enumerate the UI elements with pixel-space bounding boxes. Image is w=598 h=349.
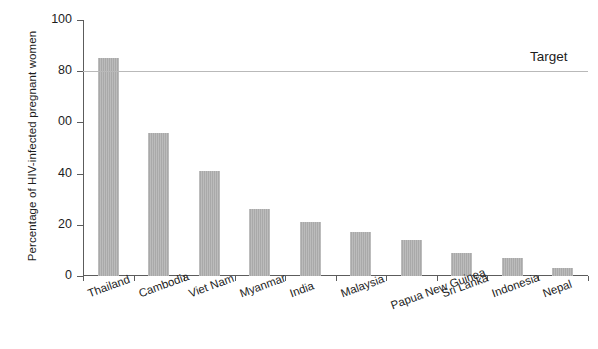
y-axis-title: Percentage of HIV-infected pregnant wome… — [26, 6, 38, 286]
y-axis-tick-label: 00 — [38, 114, 72, 128]
y-axis-tick: 20 — [77, 225, 83, 226]
x-axis-label: Thailand — [86, 273, 132, 299]
target-label: Target — [530, 49, 568, 64]
bar — [552, 268, 573, 276]
bar — [98, 58, 119, 276]
y-axis-tick: 40 — [77, 174, 83, 175]
bar — [401, 240, 422, 276]
y-axis-tick-label: 100 — [38, 12, 72, 26]
x-axis-label: India — [288, 279, 316, 299]
bar — [502, 258, 523, 276]
y-axis-tick: 00 — [77, 122, 83, 123]
y-axis-tick-label: 0 — [38, 268, 72, 282]
x-axis-label: Indonesia — [490, 271, 541, 299]
plot-area: 020400080100Target — [83, 20, 588, 276]
bar — [199, 171, 220, 276]
x-axis-labels: ThailandCambodiaViet NamMyanmarIndiaMala… — [83, 276, 588, 349]
bar — [300, 222, 321, 276]
y-axis-tick-label: 80 — [38, 63, 72, 77]
bar — [148, 133, 169, 276]
x-axis-label: Nepal — [541, 278, 573, 300]
x-axis-tick — [588, 276, 589, 281]
bar — [249, 209, 270, 276]
x-axis-label: Malaysia — [339, 272, 386, 299]
y-axis-tick-label: 40 — [38, 166, 72, 180]
y-axis-line — [83, 20, 84, 276]
bar-chart: Percentage of HIV-infected pregnant wome… — [0, 0, 598, 349]
y-axis-tick: 100 — [77, 20, 83, 21]
x-axis-label: Viet Nam — [187, 272, 235, 299]
target-line — [83, 71, 588, 72]
y-axis-tick-label: 20 — [38, 217, 72, 231]
x-axis-label: Myanmar — [238, 272, 287, 300]
bar — [350, 232, 371, 276]
